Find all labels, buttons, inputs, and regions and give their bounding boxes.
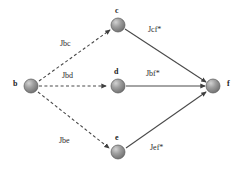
edge-b-e xyxy=(38,92,109,148)
node-d[interactable] xyxy=(111,79,125,93)
edge-e-f xyxy=(126,92,206,148)
edge-label-e-f: Jef* xyxy=(150,144,163,152)
edge-label-b-e: Jbe xyxy=(59,137,70,145)
node-c[interactable] xyxy=(111,18,125,32)
node-label-f: f xyxy=(227,80,230,88)
node-b[interactable] xyxy=(24,79,38,93)
edge-label-b-d: Jbd xyxy=(62,72,73,80)
edge-label-c-f: Jcf* xyxy=(148,26,161,34)
node-f[interactable] xyxy=(206,79,220,93)
node-label-c: c xyxy=(115,7,119,15)
edge-label-b-c: Jbc xyxy=(60,40,71,48)
edge-label-d-f: Jbf* xyxy=(146,70,160,78)
diagram-canvas: b c d e f Jbc Jbd Jbe Jcf* Jbf* Jef* xyxy=(0,0,243,172)
nodes-layer xyxy=(24,18,220,159)
edge-c-f xyxy=(125,29,206,82)
node-label-e: e xyxy=(115,134,119,142)
node-label-d: d xyxy=(114,68,118,76)
node-label-b: b xyxy=(13,80,17,88)
graph-svg xyxy=(0,0,243,172)
node-e[interactable] xyxy=(111,145,125,159)
edge-b-c xyxy=(39,30,110,81)
